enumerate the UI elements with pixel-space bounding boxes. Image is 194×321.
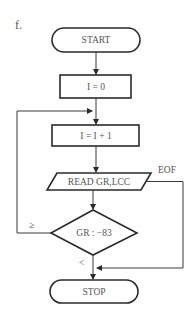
eof-label: EOF xyxy=(158,165,176,175)
flowchart-diagram: f. START I = 0 I = I + 1 READ GR,LCC EOF… xyxy=(0,0,194,321)
read-label: READ GR,LCC xyxy=(68,177,130,187)
stop-label: STOP xyxy=(82,287,105,297)
increment-process-box: I = I + 1 xyxy=(52,125,139,146)
start-terminal: START xyxy=(52,28,140,52)
figure-label: f. xyxy=(15,18,22,32)
stop-terminal: STOP xyxy=(50,280,138,303)
ge-label: ≥ xyxy=(29,220,34,230)
init-process-box: I = 0 xyxy=(60,75,131,98)
init-label: I = 0 xyxy=(87,82,105,92)
read-input-parallelogram: READ GR,LCC xyxy=(47,173,151,190)
lt-label: < xyxy=(79,258,84,268)
increment-label: I = I + 1 xyxy=(80,131,112,141)
compare-decision-diamond: GR : −83 xyxy=(51,210,137,255)
start-label: START xyxy=(82,35,111,45)
compare-label: GR : −83 xyxy=(76,228,112,238)
